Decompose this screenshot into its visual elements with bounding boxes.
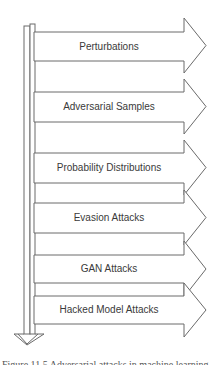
figure-caption: Figure 11.5 Adversarial attacks in machi… [2,359,222,365]
arrow-label: GAN Attacks [34,263,184,275]
arrow-label: Adversarial Samples [34,101,184,113]
arrow-label: Hacked Model Attacks [34,304,184,316]
arrow-label: Perturbations [34,41,184,53]
arrow-label: Probability Distributions [34,162,184,174]
right-arrows [34,18,206,337]
arrow-label: Evasion Attacks [34,212,184,224]
